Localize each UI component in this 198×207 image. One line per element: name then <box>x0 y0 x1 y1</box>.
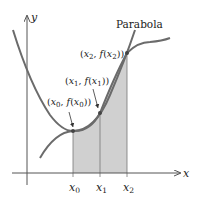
point-label-p1: (x1, f(x1)) <box>65 75 109 88</box>
point-label-p2: (x2, f(x2)) <box>80 48 124 61</box>
simpson-diagram: y x Parabola (x2, f(x2)) (x1, f(x1)) (x0… <box>0 0 198 207</box>
point-x1 <box>98 111 102 115</box>
arrow-p0 <box>69 112 73 127</box>
x-axis-label: x <box>183 167 190 180</box>
point-label-p0: (x0, f(x0)) <box>47 96 91 109</box>
tick-x0: x0 <box>69 181 80 195</box>
parabola-label: Parabola <box>116 18 163 30</box>
tick-x2: x2 <box>123 181 134 195</box>
y-axis-label: y <box>30 11 38 24</box>
tick-x1: x1 <box>96 181 107 195</box>
point-x2 <box>125 51 129 55</box>
point-x0 <box>71 129 75 133</box>
arrow-p1 <box>93 89 98 108</box>
